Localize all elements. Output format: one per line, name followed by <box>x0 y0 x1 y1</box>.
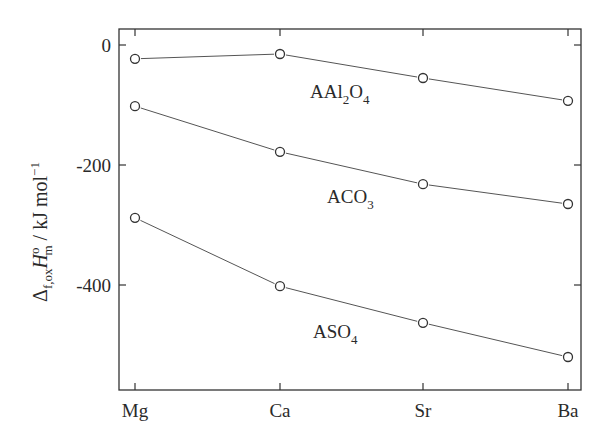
data-point-marker <box>564 200 573 209</box>
series-line <box>286 153 417 183</box>
series-line <box>140 220 274 283</box>
series-line <box>286 288 417 322</box>
y-tick-label: -400 <box>76 275 111 296</box>
series-line <box>286 55 417 77</box>
data-point-marker <box>131 102 140 111</box>
data-point-marker <box>564 353 573 362</box>
data-point-marker <box>276 50 285 59</box>
x-tick-label: Ba <box>557 400 579 421</box>
series-line <box>429 324 562 355</box>
y-tick-label: -200 <box>76 155 111 176</box>
line-chart: 0-200-400 MgCaSrBa AAl2O4 ACO3 ASO4 Δf,o… <box>0 0 603 441</box>
y-axis-title: Δf,oxHom / kJ mol−1 <box>27 162 55 302</box>
series-label-aso4: ASO4 <box>313 321 358 347</box>
data-point-marker <box>276 282 285 291</box>
series-line <box>141 108 275 150</box>
series-label-aco3: ACO3 <box>327 186 374 212</box>
series-line <box>429 79 562 100</box>
data-point-marker <box>419 318 428 327</box>
y-axis-ticks: 0-200-400 <box>76 35 581 296</box>
data-point-marker <box>419 180 428 189</box>
data-point-marker <box>276 147 285 156</box>
series-line <box>141 54 274 58</box>
data-point-marker <box>564 96 573 105</box>
x-tick-label: Ca <box>269 400 291 421</box>
data-point-marker <box>131 54 140 63</box>
data-point-marker <box>131 213 140 222</box>
x-tick-label: Mg <box>122 400 149 421</box>
x-tick-label: Sr <box>415 400 433 421</box>
data-point-marker <box>419 74 428 83</box>
y-tick-label: 0 <box>102 35 112 56</box>
series-line <box>429 185 562 203</box>
series-label-aal2o4: AAl2O4 <box>310 81 370 107</box>
